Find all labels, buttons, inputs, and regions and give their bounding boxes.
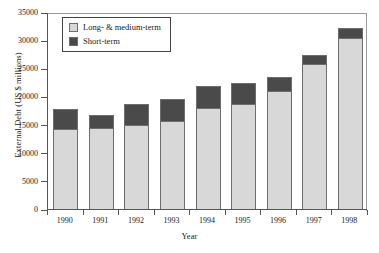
x-axis-tick bbox=[331, 210, 332, 215]
x-axis-tick bbox=[296, 210, 297, 215]
x-axis-tick bbox=[225, 210, 226, 215]
x-axis-tick bbox=[83, 210, 84, 215]
bar-segment-short-term bbox=[160, 99, 185, 121]
chart-legend: Long- & medium-term Short-term bbox=[62, 17, 171, 52]
y-axis-tick bbox=[41, 153, 47, 154]
x-axis-tick bbox=[189, 210, 190, 215]
y-axis-tick bbox=[41, 125, 47, 126]
bar-1995 bbox=[231, 83, 256, 209]
bar-1998 bbox=[338, 28, 363, 209]
y-axis-tick-label: 20000 bbox=[0, 93, 38, 101]
short-term-swatch bbox=[69, 37, 78, 46]
x-axis-tick bbox=[260, 210, 261, 215]
bar-segment-long-term bbox=[160, 121, 185, 209]
bar-segment-short-term bbox=[267, 77, 292, 92]
x-axis-tick bbox=[47, 210, 48, 215]
bar-segment-long-term bbox=[302, 64, 327, 209]
y-axis-tick bbox=[41, 13, 47, 14]
y-axis-tick bbox=[41, 97, 47, 98]
bar-segment-long-term bbox=[196, 108, 221, 209]
x-axis-tick bbox=[118, 210, 119, 215]
bar-segment-long-term bbox=[53, 129, 78, 209]
bar-segment-long-term bbox=[267, 91, 292, 209]
y-axis-tick-label: 30000 bbox=[0, 37, 38, 45]
y-axis-tick-label: 10000 bbox=[0, 150, 38, 158]
bar-1997 bbox=[302, 55, 327, 209]
legend-item-short-term: Short-term bbox=[69, 36, 161, 47]
bar-segment-long-term bbox=[231, 104, 256, 209]
bar-segment-short-term bbox=[338, 28, 363, 38]
legend-label-long-term: Long- & medium-term bbox=[83, 23, 161, 32]
long-term-swatch bbox=[69, 23, 78, 32]
x-axis-tick-label-1998: 1998 bbox=[327, 216, 371, 225]
bar-1993 bbox=[160, 99, 185, 209]
bar-1991 bbox=[89, 115, 114, 209]
x-axis-tick bbox=[367, 210, 368, 215]
y-axis-tick-label: 25000 bbox=[0, 65, 38, 73]
bar-1990 bbox=[53, 109, 78, 209]
bar-segment-short-term bbox=[302, 55, 327, 64]
bar-1992 bbox=[124, 104, 149, 209]
bar-segment-long-term bbox=[338, 38, 363, 209]
bar-segment-short-term bbox=[231, 83, 256, 104]
y-axis-tick-label: 0 bbox=[0, 206, 38, 214]
legend-label-short-term: Short-term bbox=[83, 37, 120, 46]
bar-segment-long-term bbox=[89, 128, 114, 209]
y-axis-tick-label: 5000 bbox=[0, 178, 38, 186]
legend-item-long-term: Long- & medium-term bbox=[69, 22, 161, 33]
y-axis-tick-label: 15000 bbox=[0, 122, 38, 130]
y-axis-tick-label: 35000 bbox=[0, 9, 38, 17]
bar-1996 bbox=[267, 77, 292, 209]
y-axis-tick bbox=[41, 181, 47, 182]
bar-segment-short-term bbox=[89, 115, 114, 128]
bar-segment-short-term bbox=[196, 86, 221, 109]
y-axis-tick bbox=[41, 69, 47, 70]
x-axis-tick bbox=[154, 210, 155, 215]
x-axis-label: Year bbox=[0, 231, 379, 241]
bar-segment-long-term bbox=[124, 125, 149, 209]
external-debt-stacked-bar-chart: External Debt (US $ millions) Year Long-… bbox=[0, 0, 379, 253]
bar-segment-short-term bbox=[53, 109, 78, 129]
bar-1994 bbox=[196, 86, 221, 209]
y-axis-tick bbox=[41, 41, 47, 42]
bar-segment-short-term bbox=[124, 104, 149, 125]
